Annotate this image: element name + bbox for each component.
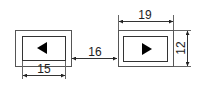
right-width-dimension: 19	[119, 8, 174, 30]
triangle-left-icon	[37, 42, 47, 54]
dimension-diagram: 15 16 19 12	[0, 0, 201, 91]
gap-dimension: 16	[72, 45, 117, 59]
right-height-label: 12	[174, 41, 188, 55]
right-height-dimension: 12	[174, 31, 191, 67]
left-width-label: 15	[37, 62, 51, 76]
gap-label: 16	[88, 45, 102, 59]
left-width-dimension: 15	[23, 61, 66, 79]
right-width-label: 19	[138, 8, 152, 22]
right-button	[119, 31, 174, 67]
triangle-right-icon	[142, 43, 152, 55]
